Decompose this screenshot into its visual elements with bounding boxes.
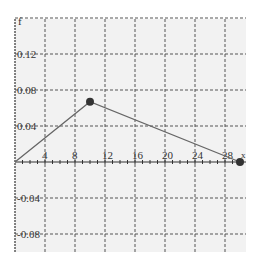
chart: 4812162024280.120.080.04-0.04-0.08 f x <box>0 0 262 264</box>
x-tick-label: 24 <box>192 149 204 161</box>
y-tick-label: -0.08 <box>17 228 40 240</box>
x-tick-label: 8 <box>72 149 78 161</box>
data-point-marker <box>86 98 94 106</box>
x-tick-label: 12 <box>102 149 113 161</box>
y-axis-label: f <box>18 15 22 27</box>
x-axis-label: x <box>241 150 246 160</box>
x-tick-label: 4 <box>42 149 48 161</box>
y-tick-label: -0.04 <box>17 192 40 204</box>
y-tick-label: 0.04 <box>17 120 37 132</box>
x-tick-label: 20 <box>162 149 174 161</box>
x-tick-label: 16 <box>132 149 144 161</box>
y-tick-label: 0.12 <box>17 48 36 60</box>
y-tick-label: 0.08 <box>17 84 37 96</box>
